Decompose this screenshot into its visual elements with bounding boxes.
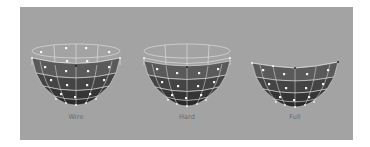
hard-bowl-mesh (137, 7, 237, 112)
top-wire-ring (144, 44, 230, 66)
wire-label: Wire (26, 113, 126, 121)
full-bowl-mesh (245, 7, 345, 112)
hard-label: Hard (137, 113, 237, 121)
hard-bowl-figure: Hard (137, 7, 237, 112)
wire-bowl-mesh (26, 7, 126, 112)
full-bowl-figure: Full (245, 7, 345, 112)
wire-bowl-figure: Wire (26, 7, 126, 112)
viewport-panel: Wire (20, 7, 353, 140)
full-label: Full (245, 113, 345, 121)
